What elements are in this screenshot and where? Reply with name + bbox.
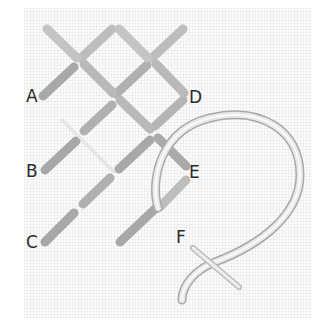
- label-b: B: [26, 163, 38, 180]
- label-e: E: [189, 164, 200, 181]
- label-c: C: [26, 234, 38, 251]
- label-a: A: [26, 88, 38, 105]
- slash-stitches: [43, 29, 186, 242]
- label-d: D: [189, 89, 202, 106]
- label-f: F: [176, 229, 186, 246]
- cross-stitch-diagram: A B C D E F: [0, 0, 329, 322]
- stitch-illustration: [0, 0, 329, 322]
- working-thread: [156, 115, 300, 300]
